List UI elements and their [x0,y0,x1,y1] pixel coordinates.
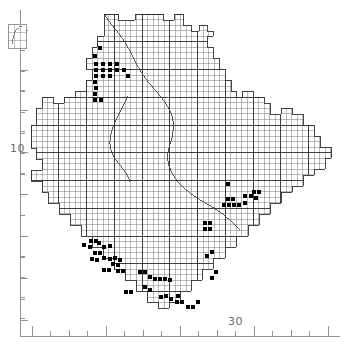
record-dot [186,305,190,309]
record-dot [138,270,142,274]
record-dot [237,203,241,207]
record-dot [102,256,106,260]
record-dot [124,290,128,294]
record-dot [208,227,212,231]
record-dot [169,297,173,301]
record-dot [93,251,97,255]
record-dot [254,196,258,200]
record-dot [115,68,119,72]
record-dot [93,98,97,102]
record-dot [118,258,122,262]
record-dot [203,221,207,225]
record-dot [226,182,230,186]
record-dot [107,268,111,272]
record-dot [231,197,235,201]
record-dot [222,203,226,207]
record-dot [98,251,102,255]
record-dot [108,257,112,261]
record-dot [89,239,93,243]
record-dot [93,80,97,84]
record-dot [94,74,98,78]
record-dot [90,257,94,261]
record-dot [108,62,112,66]
map-canvas: 10 30 [0,0,347,346]
record-dot [115,62,119,66]
record-dot [101,62,105,66]
record-dot [94,62,98,66]
record-dot [168,278,172,282]
record-dot [163,277,167,281]
locator-inset [8,24,26,48]
record-dot [88,245,92,249]
record-dot [243,194,247,198]
record-dot [111,262,115,266]
record-dot [191,305,195,309]
latitude-tick-label: 10 [10,142,25,155]
record-dot [98,46,102,50]
record-dot [205,254,209,258]
record-dot [143,285,147,289]
record-dot [226,197,230,201]
record-dot [210,250,214,254]
record-dot [203,227,207,231]
record-dot [214,270,218,274]
record-dot [94,68,98,72]
record-dot [94,86,98,90]
record-dot [116,269,120,273]
record-dot [210,276,214,280]
record-dot [208,221,212,225]
record-dot [232,203,236,207]
record-dot [95,258,99,262]
figure-background [0,0,347,346]
record-dot [101,74,105,78]
record-dot [102,245,106,249]
record-dot [82,243,86,247]
record-dot [257,190,261,194]
locator-inset-frame [8,24,26,48]
longitude-tick-label: 30 [228,315,243,328]
record-dot [153,277,157,281]
record-dot [108,74,112,78]
record-dot [129,290,133,294]
record-dot [108,68,112,72]
record-dot [164,294,168,298]
record-dot [93,54,97,58]
record-dot [159,295,163,299]
record-dot [227,203,231,207]
record-dot [126,74,130,78]
record-dot [99,98,103,102]
record-dot [122,68,126,72]
record-dot [108,244,112,248]
record-dot [249,194,253,198]
record-dot [101,68,105,72]
record-dot [243,201,247,205]
record-dot [116,263,120,267]
record-dot [143,270,147,274]
record-dot [252,190,256,194]
record-dot [148,288,152,292]
record-dot [148,275,152,279]
record-dot [113,256,117,260]
record-dot [102,268,106,272]
record-dot [196,300,200,304]
record-dot [176,294,180,298]
record-dot [97,241,101,245]
record-dot [175,300,179,304]
record-dot [121,269,125,273]
record-dot [158,277,162,281]
record-dot [93,92,97,96]
distribution-map-figure: 10 30 [0,0,347,346]
record-dot [180,300,184,304]
